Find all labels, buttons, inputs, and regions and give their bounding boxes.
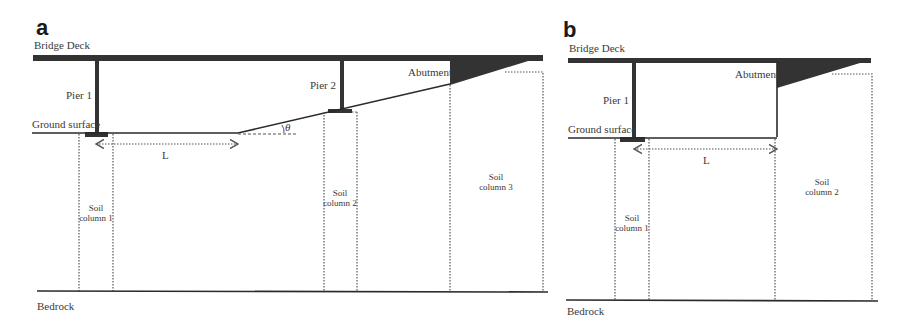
abutment-label: Abutment: [408, 66, 452, 78]
bedrock-label: Bedrock: [567, 305, 605, 317]
soil-column-2-label-line2: column 2: [805, 187, 839, 197]
soil-column-2-label-line1: Soil: [333, 188, 348, 198]
slope-angle-label: θ: [285, 121, 291, 133]
span-length-label: L: [162, 149, 169, 161]
soil-column-1-label-line1: Soil: [89, 203, 104, 213]
soil-column-1-label-line2: column 1: [79, 213, 113, 223]
span-length-label: L: [703, 154, 710, 166]
soil-column-2-label-line1: Soil: [815, 177, 830, 187]
bridge-soil-diagram: a Bridge Deck Abutment Pier 1 Pier 2 Gro…: [0, 0, 906, 328]
pier-1-label: Pier 1: [603, 94, 629, 106]
ground-surface-label: Ground surface: [32, 118, 100, 130]
bridge-deck-label: Bridge Deck: [34, 39, 90, 51]
angle-arc: [282, 125, 284, 133]
soil-column-1-label-line1: Soil: [625, 213, 640, 223]
soil-column-3-label-line2: column 3: [479, 182, 513, 192]
bedrock-line: [566, 300, 878, 301]
pier-2-label: Pier 2: [310, 79, 336, 91]
panel-letter-a: a: [36, 15, 49, 40]
pier-2: [340, 60, 344, 110]
panel-letter-b: b: [563, 17, 576, 42]
soil-column-3-label-line1: Soil: [489, 172, 504, 182]
abutment-label: Abutment: [735, 68, 779, 80]
panel-a: a Bridge Deck Abutment Pier 1 Pier 2 Gro…: [32, 15, 548, 312]
panel-b: b Bridge Deck Abutment Pier 1 Ground sur…: [563, 17, 878, 317]
bedrock-line: [37, 291, 548, 292]
soil-column-1-label-line2: column 1: [615, 223, 649, 233]
bridge-deck-label: Bridge Deck: [569, 42, 625, 54]
soil-column-2-label-line2: column 2: [323, 198, 357, 208]
bedrock-label: Bedrock: [37, 300, 75, 312]
ground-surface-label: Ground surface: [568, 123, 636, 135]
pier-1-label: Pier 1: [66, 89, 92, 101]
abutment: [450, 57, 541, 85]
